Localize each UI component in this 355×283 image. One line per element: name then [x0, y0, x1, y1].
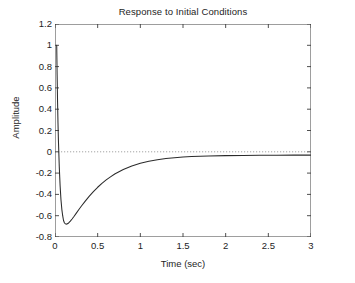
x-tick-label: 2	[206, 240, 246, 251]
y-axis-label: Amplitude	[10, 73, 21, 163]
x-axis-tick-labels: 00.511.522.53	[55, 240, 311, 254]
x-axis-label: Time (sec)	[55, 258, 311, 269]
x-tick-label: 1	[120, 240, 160, 251]
plot-area	[55, 24, 311, 237]
y-tick-label: -0.6	[12, 211, 52, 221]
x-tick-label: 1.5	[163, 240, 203, 251]
x-tick-label: 3	[291, 240, 331, 251]
x-tick-label: 0.5	[78, 240, 118, 251]
y-tick-label: -0.2	[12, 168, 52, 178]
y-tick-label: 0.8	[12, 62, 52, 72]
y-tick-label: 1	[12, 40, 52, 50]
plot-background	[55, 24, 311, 237]
x-tick-label: 0	[35, 240, 75, 251]
y-tick-label: 1.2	[12, 19, 52, 29]
y-tick-label: -0.4	[12, 189, 52, 199]
chart-title: Response to Initial Conditions	[55, 6, 311, 17]
plot-svg	[55, 24, 311, 237]
x-tick-label: 2.5	[248, 240, 288, 251]
figure-canvas: Response to Initial Conditions 1.210.80.…	[0, 0, 355, 283]
